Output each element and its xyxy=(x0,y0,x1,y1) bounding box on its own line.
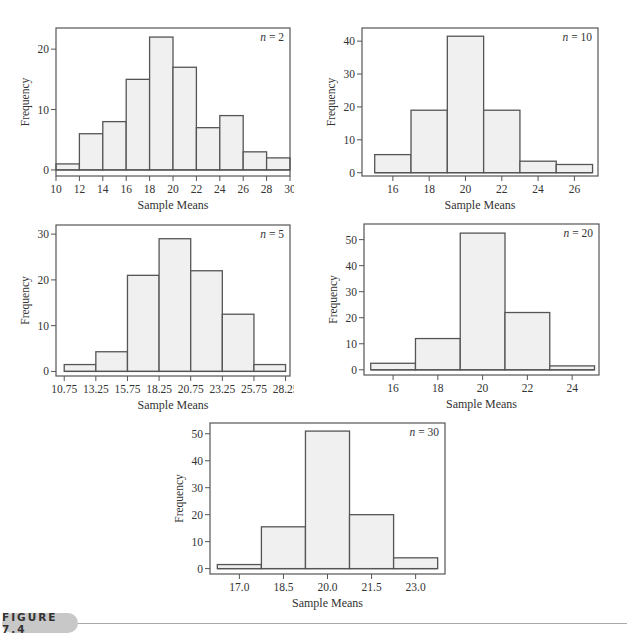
histogram-bar: 25-27: 2.5 xyxy=(556,164,592,172)
y-tick-label: 20 xyxy=(192,509,204,521)
x-axis-label: Sample Means xyxy=(445,198,516,212)
x-tick-label: 24 xyxy=(566,382,578,394)
y-tick-label: 20 xyxy=(346,312,358,324)
y-tick-label: 0 xyxy=(43,164,49,176)
histogram-bar: 10.75-13.25: 1.5 xyxy=(64,365,96,372)
histogram-bar: 21-23: 19 xyxy=(484,110,520,172)
y-tick-label: 40 xyxy=(192,455,204,467)
histogram-bar: 22-24: 7 xyxy=(196,128,219,170)
x-tick-label: 24 xyxy=(532,183,544,195)
histogram-bar: 20-22: 17 xyxy=(173,67,196,170)
y-tick-label: 30 xyxy=(346,286,358,298)
x-axis-label: Sample Means xyxy=(138,198,209,212)
histogram-bar: 10-12: 1 xyxy=(56,164,79,170)
y-axis-label: Frequency xyxy=(19,276,32,325)
y-tick-label: 50 xyxy=(192,428,204,440)
y-tick-label: 10 xyxy=(192,536,204,548)
x-tick-label: 20.0 xyxy=(317,581,337,593)
x-tick-label: 18 xyxy=(432,382,444,394)
histogram-bar: 17-19: 19 xyxy=(411,110,447,172)
y-axis-label: Frequency xyxy=(19,77,32,126)
x-tick-label: 10.75 xyxy=(51,383,77,395)
x-tick-label: 12 xyxy=(74,183,86,195)
histogram-bar: 24-26: 9 xyxy=(220,116,243,170)
x-tick-label: 16 xyxy=(387,183,399,195)
x-tick-label: 20 xyxy=(167,183,179,195)
histogram-bar: 15-17: 5.5 xyxy=(375,155,411,173)
y-tick-label: 30 xyxy=(344,68,356,80)
histogram-bar: 12-14: 6 xyxy=(79,134,102,170)
y-axis-label: Frequency xyxy=(173,474,186,523)
sample-size-annotation: n = 30 xyxy=(410,426,440,438)
y-axis-label: Frequency xyxy=(327,275,340,324)
x-tick-label: 23.0 xyxy=(406,581,426,593)
sample-size-annotation: n = 20 xyxy=(564,227,594,239)
sample-size-annotation: n = 5 xyxy=(260,228,284,240)
histogram-panel-n5: 10.75-13.25: 1.513.25-15.75: 4.315.75-18… xyxy=(16,223,294,418)
histogram-bars: 10-12: 112-14: 614-16: 816-18: 1518-20: … xyxy=(56,37,290,170)
x-tick-label: 10 xyxy=(50,183,62,195)
y-tick-label: 50 xyxy=(346,234,358,246)
histogram-bar: 19.25-20.75: 51 xyxy=(305,431,349,569)
x-tick-label: 22 xyxy=(191,183,203,195)
x-tick-label: 16 xyxy=(387,382,399,394)
histogram-bar: 13.25-15.75: 4.3 xyxy=(96,352,128,372)
y-tick-label: 10 xyxy=(344,134,356,146)
y-tick-label: 40 xyxy=(346,260,358,272)
histogram-bar: 21-23: 22 xyxy=(505,313,550,370)
y-tick-label: 10 xyxy=(38,320,50,332)
y-tick-label: 20 xyxy=(38,43,50,55)
histogram-bar: 23-25: 3.5 xyxy=(520,161,556,173)
histogram-bars: 10.75-13.25: 1.513.25-15.75: 4.315.75-18… xyxy=(64,239,285,372)
y-tick-label: 20 xyxy=(38,274,50,286)
histogram-panel-n10: 15-17: 5.517-19: 1919-21: 41.521-23: 192… xyxy=(322,26,602,218)
x-tick-label: 22 xyxy=(496,183,508,195)
x-tick-label: 14 xyxy=(97,183,109,195)
y-tick-label: 0 xyxy=(349,167,355,179)
y-tick-label: 0 xyxy=(197,563,203,575)
figure-label: FIGURE 7.4 xyxy=(2,613,78,633)
x-tick-label: 17.0 xyxy=(229,581,249,593)
histogram-bars: 15-17: 5.517-19: 1919-21: 41.521-23: 192… xyxy=(375,36,593,172)
x-tick-label: 20 xyxy=(477,382,489,394)
x-tick-label: 18 xyxy=(423,183,435,195)
histogram-bar: 17.75-19.25: 15.5 xyxy=(261,527,305,569)
x-tick-label: 21.5 xyxy=(362,581,382,593)
histogram-bar: 19-21: 52.5 xyxy=(460,233,505,370)
x-tick-label: 30 xyxy=(284,183,294,195)
x-tick-label: 24 xyxy=(214,183,226,195)
y-tick-label: 10 xyxy=(38,104,50,116)
x-tick-label: 20.75 xyxy=(178,383,204,395)
histogram-bar: 26-28: 3 xyxy=(243,152,266,170)
x-tick-label: 18 xyxy=(144,183,156,195)
y-tick-label: 40 xyxy=(344,35,356,47)
y-tick-label: 20 xyxy=(344,101,356,113)
histogram-bar: 15-17: 2.5 xyxy=(371,363,416,370)
y-tick-label: 0 xyxy=(43,365,49,377)
histogram-bar: 18-20: 22 xyxy=(150,37,173,170)
x-tick-label: 18.5 xyxy=(273,581,293,593)
x-tick-label: 23.25 xyxy=(209,383,235,395)
y-axis-label: Frequency xyxy=(325,77,338,126)
x-tick-label: 26 xyxy=(569,183,581,195)
sample-size-annotation: n = 10 xyxy=(563,31,593,43)
histogram-bar: 14-16: 8 xyxy=(103,122,126,170)
x-axis-label: Sample Means xyxy=(138,398,209,412)
x-axis-label: Sample Means xyxy=(292,596,363,610)
y-tick-label: 30 xyxy=(192,482,204,494)
x-tick-label: 28 xyxy=(261,183,273,195)
y-tick-label: 30 xyxy=(38,228,50,240)
histogram-bar: 22.25-23.75: 4 xyxy=(394,558,438,569)
histogram-panel-n20: 15-17: 2.517-19: 1219-21: 52.521-23: 222… xyxy=(324,222,603,417)
histogram-bar: 23.25-25.75: 12.5 xyxy=(222,314,254,371)
y-tick-label: 10 xyxy=(346,338,358,350)
histogram-bars: 15-17: 2.517-19: 1219-21: 52.521-23: 222… xyxy=(371,233,595,370)
x-tick-label: 26 xyxy=(237,183,249,195)
x-tick-label: 22 xyxy=(522,382,534,394)
histogram-panel-n2: 10-12: 112-14: 614-16: 816-18: 1518-20: … xyxy=(16,26,294,218)
histogram-bar: 17-19: 12 xyxy=(415,339,460,370)
x-tick-label: 18.25 xyxy=(146,383,172,395)
histogram-bar: 25.75-28.25: 1.5 xyxy=(254,365,286,372)
histogram-bars: 16.25-17.75: 1.517.75-19.25: 15.519.25-2… xyxy=(217,431,437,569)
y-tick-label: 0 xyxy=(351,364,357,376)
